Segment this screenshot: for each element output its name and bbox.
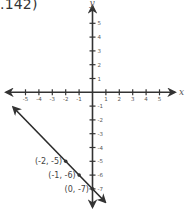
y-tick-label: -3 [98,131,104,137]
x-tick-label: -2 [63,96,68,102]
y-tick-label: 5 [98,20,102,26]
x-tick-label: 4 [144,96,148,102]
data-point [77,173,81,177]
axes: xy [6,0,184,207]
x-tick-label: -3 [50,96,56,102]
x-tick-label: -5 [23,96,29,102]
y-tick-label: -5 [98,158,104,164]
data-point [91,187,95,191]
y-tick-label: 2 [98,62,102,68]
y-axis-label: y [89,0,96,8]
data-point [64,160,68,164]
y-tick-label: 1 [98,76,102,82]
x-tick-label: -4 [36,96,42,102]
y-tick-label: -6 [98,172,104,178]
y-tick-label: -4 [98,145,104,151]
x-axis-label: x [179,87,184,97]
point-label: (-2, -5) [35,157,62,166]
coordinate-plane: xy -5-4-3-2-11234554321-1-2-3-4-5-6-7 (-… [0,0,189,211]
point-label: (-1, -6) [48,171,75,180]
x-tick-label: -1 [76,96,81,102]
y-tick-label: -2 [98,117,103,123]
x-tick-label: 3 [131,96,135,102]
y-tick-label: -1 [98,103,103,109]
point-label: (0, -7) [65,185,89,194]
x-tick-label: 1 [104,96,108,102]
x-tick-label: 5 [158,96,162,102]
y-tick-label: 4 [98,34,102,40]
y-tick-label: -7 [98,186,104,192]
x-tick-label: 2 [118,96,122,102]
data-series: (-2, -5)(-1, -6)(0, -7) [13,107,105,202]
y-tick-label: 3 [98,48,102,54]
